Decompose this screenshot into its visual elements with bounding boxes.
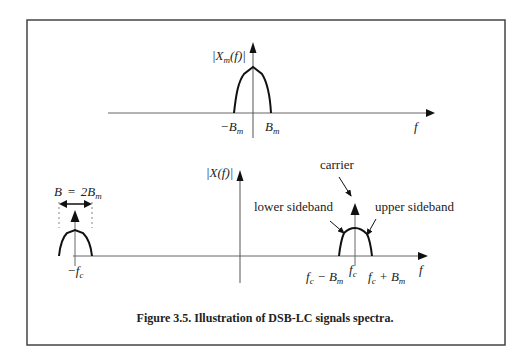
tick-pos-bm: Bm — [265, 119, 280, 136]
carrier-label: carrier — [320, 157, 355, 172]
upper-sideband-pointer — [367, 219, 376, 235]
bottom-panel: |X(f)| f B=2Bm −fc carrier — [54, 157, 455, 286]
bandwidth-arrow-left-icon — [59, 200, 67, 208]
neg-carrier-arrow-icon — [71, 210, 80, 222]
top-x-axis-label: f — [414, 119, 420, 134]
lower-sideband-label: lower sideband — [254, 199, 334, 214]
figure-caption: Figure 3.5. Illustration of DSB-LC signa… — [137, 311, 394, 325]
dsb-lc-spectra-figure: |Xm(f)| f −Bm Bm |X(f)| f B=2Bm — [0, 0, 531, 359]
tick-fc-minus-bm: fc − Bm — [306, 269, 344, 286]
bottom-frequency-axis-arrow-icon — [418, 252, 428, 260]
negative-frequency-replica: B=2Bm −fc — [54, 184, 102, 280]
figure-frame — [27, 20, 505, 345]
bandwidth-label: B=2Bm — [54, 184, 102, 201]
top-y-axis-label: |Xm(f)| — [212, 48, 246, 65]
tick-fc-plus-bm: fc + Bm — [368, 269, 406, 286]
tick-neg-bm: −Bm — [220, 119, 244, 136]
top-panel: |Xm(f)| f −Bm Bm — [108, 42, 435, 138]
carrier-arrow-icon — [351, 203, 360, 215]
bottom-x-axis-label: f — [419, 262, 425, 277]
bottom-y-axis-label: |X(f)| — [206, 165, 233, 180]
lower-sideband-pointer — [330, 221, 344, 233]
tick-neg-fc: −fc — [67, 263, 83, 280]
bandwidth-arrow-right-icon — [84, 200, 92, 208]
top-magnitude-axis-arrow-icon — [250, 42, 257, 53]
carrier-pointer — [339, 177, 351, 196]
top-frequency-axis-arrow-icon — [426, 109, 435, 117]
positive-frequency-replica: carrier lower sideband upper sideband fc… — [254, 157, 455, 286]
upper-sideband-label: upper sideband — [375, 199, 455, 214]
bottom-magnitude-axis-arrow-icon — [237, 170, 244, 181]
